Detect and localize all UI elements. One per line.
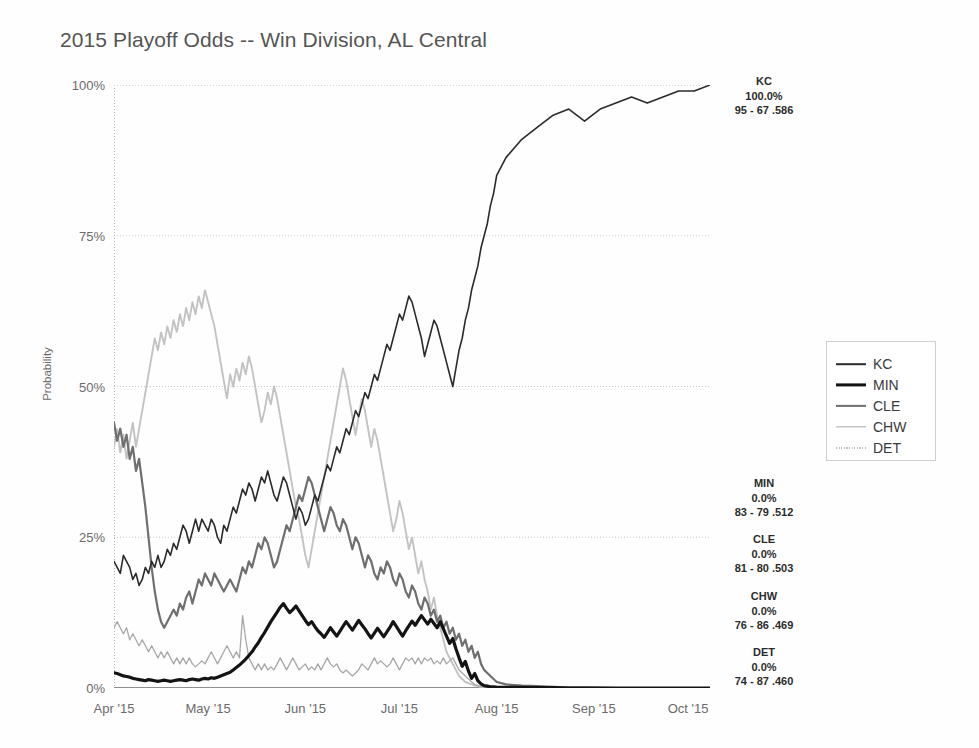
x-tick-label: Sep '15 [572, 701, 616, 716]
legend-line-icon [836, 400, 866, 412]
legend-line-icon [836, 358, 866, 370]
legend-item-label: KC [873, 356, 892, 372]
x-tick-label: Oct '15 [668, 701, 709, 716]
end-label-team: MIN [718, 476, 810, 491]
page-title: 2015 Playoff Odds -- Win Division, AL Ce… [60, 28, 487, 52]
end-label-probability: 0.0% [718, 660, 810, 675]
end-label-min: MIN0.0%83 - 79 .512 [718, 476, 810, 520]
series-line-kc [114, 85, 710, 585]
chart-page: 2015 Playoff Odds -- Win Division, AL Ce… [0, 0, 979, 748]
legend-item-det[interactable]: DET [836, 438, 935, 458]
y-axis-title: Probability [41, 347, 53, 401]
end-label-chw: CHW0.0%76 - 86 .469 [718, 589, 810, 633]
end-label-det: DET0.0%74 - 87 .460 [718, 645, 810, 689]
end-label-probability: 0.0% [718, 604, 810, 619]
end-label-cle: CLE0.0%81 - 80 .503 [718, 532, 810, 576]
end-label-probability: 100.0% [718, 89, 810, 104]
end-label-record: 81 - 80 .503 [718, 561, 810, 576]
chart-canvas [114, 85, 710, 688]
x-tick-label: Apr '15 [94, 701, 135, 716]
chart-legend: KCMINCLECHWDET [826, 341, 936, 461]
y-tick-label: 25% [79, 530, 105, 545]
x-tick-label: Jul '15 [381, 701, 418, 716]
x-tick-label: Jun '15 [285, 701, 327, 716]
y-tick-label: 0% [86, 681, 105, 696]
legend-line-icon [836, 421, 866, 433]
end-label-kc: KC100.0%95 - 67 .586 [718, 74, 810, 118]
end-label-team: KC [718, 74, 810, 89]
y-tick-label: 100% [72, 78, 105, 93]
end-label-record: 74 - 87 .460 [718, 674, 810, 689]
legend-item-label: MIN [873, 377, 899, 393]
legend-item-min[interactable]: MIN [836, 375, 935, 395]
end-label-team: DET [718, 645, 810, 660]
x-tick-label: May '15 [186, 701, 231, 716]
end-label-team: CHW [718, 589, 810, 604]
end-label-record: 95 - 67 .586 [718, 103, 810, 118]
y-tick-label: 50% [79, 379, 105, 394]
legend-item-chw[interactable]: CHW [836, 417, 935, 437]
x-tick-label: Aug '15 [475, 701, 519, 716]
end-label-probability: 0.0% [718, 491, 810, 506]
y-tick-label: 75% [79, 228, 105, 243]
legend-item-cle[interactable]: CLE [836, 396, 935, 416]
series-line-cle [114, 423, 710, 688]
end-label-team: CLE [718, 532, 810, 547]
legend-line-icon [836, 442, 866, 454]
legend-item-label: CHW [873, 419, 906, 435]
legend-item-kc[interactable]: KC [836, 354, 935, 374]
end-label-record: 83 - 79 .512 [718, 505, 810, 520]
end-label-probability: 0.0% [718, 547, 810, 562]
series-line-min [114, 604, 710, 688]
legend-item-label: DET [873, 440, 901, 456]
legend-line-icon [836, 379, 866, 391]
legend-item-label: CLE [873, 398, 900, 414]
end-label-record: 76 - 86 .469 [718, 618, 810, 633]
plot-area: 0%25%50%75%100% Apr '15May '15Jun '15Jul… [114, 85, 710, 688]
